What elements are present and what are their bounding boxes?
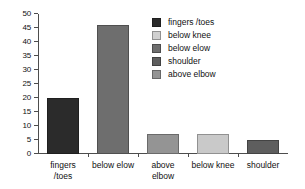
y-tick-label: 35	[23, 51, 32, 61]
x-tick-label-line: /toes	[32, 171, 94, 182]
bar-slot	[38, 14, 88, 154]
chart-legend: fingers /toesbelow kneebelow elowshoulde…	[152, 16, 282, 81]
y-tick: 20	[0, 93, 38, 103]
x-tick-label: shoulder	[232, 160, 294, 171]
x-tick-mark	[238, 153, 239, 157]
y-tick-label: 50	[23, 9, 32, 19]
y-tick-label: 25	[23, 79, 32, 89]
legend-swatch	[152, 57, 161, 66]
y-tick-label: 20	[23, 93, 32, 103]
legend-label: above elbow	[168, 70, 216, 79]
legend-swatch	[152, 31, 161, 40]
y-tick: 45	[0, 23, 38, 33]
bar	[247, 140, 279, 154]
x-tick-mark	[138, 153, 139, 157]
y-tick-label: 30	[23, 65, 32, 75]
y-tick: 15	[0, 107, 38, 117]
legend-item: shoulder	[152, 55, 282, 68]
y-tick: 40	[0, 37, 38, 47]
bar	[197, 134, 229, 154]
y-tick-label: 40	[23, 37, 32, 47]
bar-chart: 05101520253035404550 fingers/toesbelow e…	[0, 0, 305, 189]
y-tick: 50	[0, 9, 38, 19]
bar	[147, 134, 179, 154]
legend-item: below knee	[152, 29, 282, 42]
legend-label: fingers /toes	[168, 18, 214, 27]
bar	[47, 98, 79, 154]
x-tick-mark	[88, 153, 89, 157]
legend-item: above elbow	[152, 68, 282, 81]
y-tick-label: 5	[27, 135, 31, 145]
x-tick-label-line: shoulder	[232, 160, 294, 171]
x-tick-label-line: elbow	[132, 171, 194, 182]
y-tick: 25	[0, 79, 38, 89]
legend-swatch	[152, 44, 161, 53]
y-tick: 5	[0, 135, 38, 145]
legend-item: fingers /toes	[152, 16, 282, 29]
x-tick-mark	[188, 153, 189, 157]
legend-label: below elow	[168, 44, 210, 53]
y-tick: 10	[0, 121, 38, 131]
bar	[97, 25, 129, 154]
legend-label: shoulder	[168, 57, 201, 66]
y-tick-label: 0	[27, 149, 31, 159]
y-tick: 30	[0, 65, 38, 75]
legend-swatch	[152, 70, 161, 79]
bar-slot	[88, 14, 138, 154]
y-tick-label: 45	[23, 23, 32, 33]
legend-label: below knee	[168, 31, 211, 40]
y-tick: 35	[0, 51, 38, 61]
y-tick: 0	[0, 149, 38, 159]
y-tick-label: 10	[23, 121, 32, 131]
legend-swatch	[152, 18, 161, 27]
y-tick-label: 15	[23, 107, 32, 117]
legend-item: below elow	[152, 42, 282, 55]
